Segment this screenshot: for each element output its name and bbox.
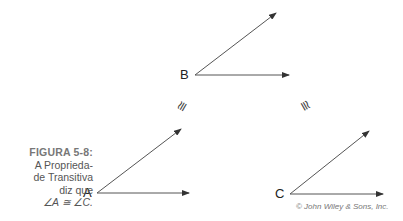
figure-caption: FIGURA 5-8: A Proprieda- de Transitiva d… bbox=[0, 146, 93, 209]
caption-statement: ∠A ≅ ∠C. bbox=[0, 196, 93, 209]
copyright-credit: © John Wiley & Sons, Inc. bbox=[296, 202, 389, 211]
label-c: C bbox=[275, 186, 284, 201]
caption-title: FIGURA 5-8: bbox=[0, 146, 93, 159]
label-b: B bbox=[180, 67, 189, 82]
caption-line-3: diz que bbox=[0, 184, 93, 197]
angle-c bbox=[290, 131, 383, 194]
angle-b bbox=[195, 13, 289, 75]
angle-a bbox=[97, 129, 189, 193]
caption-line-2: de Transitiva bbox=[0, 171, 93, 184]
caption-line-1: A Proprieda- bbox=[0, 159, 93, 172]
